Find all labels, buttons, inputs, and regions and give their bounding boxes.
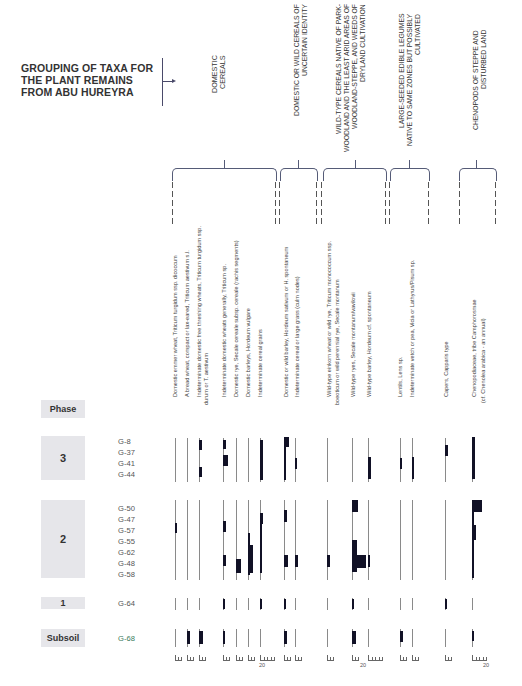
scale-tick: [190, 657, 191, 660]
scale-axis: [248, 655, 255, 661]
group-label-wild-cereals: WILD-TYPE CEREALS NATIVE OF PARK-WOODLAN…: [335, 4, 369, 154]
scale-tick: [483, 657, 484, 660]
abundance-bar: [223, 455, 228, 466]
bracket-legumes: [390, 168, 430, 181]
scale-tick: [301, 657, 302, 660]
abundance-bar: [352, 555, 366, 568]
column-baseline: [175, 598, 176, 610]
scale-tick: [418, 657, 419, 660]
taxon-label: Wild-type einkorn wheat or wild rye, Tri…: [326, 182, 333, 397]
scale-tick: [406, 657, 407, 660]
scale-tick: [251, 657, 252, 660]
taxon-label: Domestic or wild barley, Hordeum sativum…: [283, 182, 290, 397]
abundance-bar: [199, 440, 202, 450]
sample-id: G-58: [118, 569, 135, 580]
sample-id: G-64: [118, 598, 135, 609]
scale-tick: [358, 657, 359, 660]
scale-tick: [202, 657, 203, 660]
dash-leader: [275, 182, 276, 227]
abundance-bar: [284, 510, 287, 522]
abundance-bar: [472, 465, 475, 476]
abundance-bar: [400, 631, 403, 642]
column-baseline: [368, 500, 369, 580]
scale-tick: [355, 657, 356, 660]
scale-tick: [178, 657, 179, 660]
column-baseline: [248, 598, 249, 610]
sample-id: G-48: [118, 558, 135, 569]
taxon-label: Domestic rye, Secale cereale subsp. cere…: [233, 182, 240, 397]
dash-leader: [389, 182, 390, 227]
sample-id: G-55: [118, 536, 135, 547]
column-baseline: [175, 629, 176, 647]
scale-tick: [415, 657, 416, 660]
phase-subsoil-box: Subsoil: [41, 629, 85, 647]
scale-axis: [352, 655, 359, 661]
scale-axis: [295, 655, 302, 661]
abundance-bar: [260, 440, 263, 480]
abundance-bar: [223, 631, 225, 644]
scale-tick: [382, 657, 383, 660]
taxon-label: Indeterminate domestic wheats generally,…: [221, 182, 228, 397]
sample-id: G-68: [118, 633, 135, 644]
abundance-bar: [368, 555, 370, 567]
group-label-uncertain: DOMESTIC OR WILD CEREALS OF UNCERTAIN ID…: [293, 4, 311, 154]
column-baseline: [295, 598, 296, 610]
abundance-bar: [352, 631, 356, 644]
abundance-bar: [223, 555, 226, 566]
scale-tick: [226, 657, 227, 660]
column-baseline: [368, 598, 369, 610]
scale-axis: [187, 655, 194, 661]
scale-tick: [379, 657, 380, 660]
bracket-stem: [224, 160, 225, 168]
dash-leader: [428, 182, 429, 227]
scale-tick: [479, 657, 480, 660]
phase-3-box: 3: [41, 436, 85, 480]
abundance-bar: [352, 599, 354, 609]
group-label-chenopods: CHENOPODS OF STEPPE AND DISTURBED LAND: [472, 30, 490, 154]
abundance-bar: [284, 631, 287, 644]
column-baseline: [352, 438, 353, 482]
taxon-label: Indeterminate vetch or pea, Vicia or Lat…: [409, 182, 416, 397]
taxon-label: Capers, Capparis type: [443, 182, 450, 397]
scale-label: 20: [483, 662, 489, 668]
scale-tick: [486, 657, 487, 660]
abundance-bar: [445, 445, 448, 456]
abundance-bar: [175, 523, 177, 533]
arrow-head-icon: [172, 79, 176, 83]
scale-tick: [476, 657, 477, 660]
scale-axis: [368, 655, 383, 661]
column-baseline: [236, 598, 237, 610]
abundance-bar: [352, 500, 358, 512]
scale-axis: [175, 655, 182, 661]
taxon-label: Domestic emmer wheat, Triticum turgidum …: [172, 182, 179, 397]
group-label-legumes: LARGE-SEEDED EDIBLE LEGUMES NATIVE TO SA…: [398, 14, 424, 154]
column-baseline: [295, 500, 296, 580]
column-baseline: [400, 500, 401, 580]
scale-axis: [199, 655, 206, 661]
abundance-bar: [445, 599, 447, 609]
taxon-label: Lentils, Lens sp.: [397, 182, 404, 397]
scale-axis: [260, 655, 275, 661]
scale-tick: [267, 657, 268, 660]
column-baseline: [187, 500, 188, 580]
abundance-bar: [284, 599, 286, 609]
taxon-label: Wild-type ryes, Secale montanum/vavilovi…: [350, 182, 357, 397]
sample-list-subsoil: G-68: [118, 633, 135, 644]
dash-leader: [495, 182, 496, 227]
bracket-chenopods: [459, 168, 497, 181]
column-baseline: [248, 438, 249, 482]
sample-id: G-41: [118, 458, 135, 469]
sample-id: G-44: [118, 469, 135, 480]
column-baseline: [236, 629, 237, 647]
abundance-bar: [327, 555, 330, 567]
column-baseline: [472, 598, 473, 610]
scale-axis: [472, 655, 487, 661]
column-baseline: [412, 500, 413, 580]
column-baseline: [223, 500, 224, 580]
bracket-stem: [298, 160, 299, 168]
column-baseline: [248, 629, 249, 647]
bracket-stem: [355, 160, 356, 168]
scale-tick: [375, 657, 376, 660]
column-baseline: [175, 500, 176, 580]
abundance-bar: [295, 458, 297, 469]
